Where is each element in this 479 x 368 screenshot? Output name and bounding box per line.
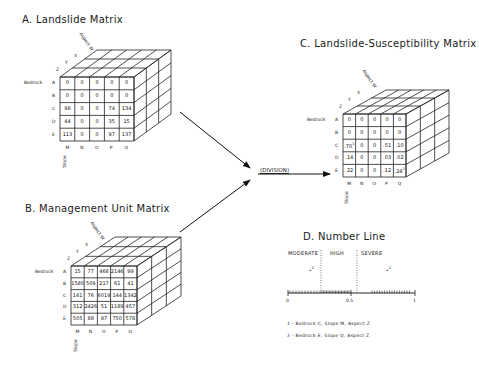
slope-tick-label: P — [385, 181, 388, 186]
bedrock-row-label: D — [52, 119, 55, 124]
category-high: HIGH — [330, 250, 344, 256]
bedrock-row-label: C — [52, 106, 55, 111]
bedrock-row-label: E — [335, 168, 338, 173]
matrix-cell: 44 — [60, 119, 75, 124]
bedrock-row-label: C — [335, 143, 338, 148]
matrix-cell: 0 — [119, 93, 134, 98]
bedrock-row-label: E — [52, 132, 55, 137]
matrix-cell: 15 — [119, 119, 134, 124]
matrix-cell: 457 — [124, 304, 137, 309]
matrix-cell: 0 — [60, 80, 75, 85]
bedrock-row-label: B — [52, 93, 55, 98]
matrix-cell: 77 — [84, 269, 97, 274]
matrix-cell: 74 — [104, 106, 119, 111]
slope-tick-label: M — [76, 329, 80, 334]
slope-tick-label: Q — [125, 145, 129, 150]
tick-label-0: 0 — [286, 298, 289, 303]
matrix-cell: 99 — [124, 269, 137, 274]
matrix-cell: 98 — [60, 106, 75, 111]
slope-axis-label: Slope — [344, 191, 349, 204]
matrix-cell: 0 — [75, 119, 90, 124]
matrix-cell: 0 — [90, 106, 105, 111]
matrix-cell: 0 — [368, 155, 381, 160]
slope-tick-label: N — [80, 145, 83, 150]
matrix-cell: .14 — [343, 155, 356, 160]
matrix-cell: 0 — [356, 130, 369, 135]
matrix-cell: 505 — [71, 316, 84, 321]
matrix-cell: 0 — [356, 143, 369, 148]
matrix-cell: 0 — [75, 106, 90, 111]
bedrock-axis-label: Bedrock — [307, 117, 325, 122]
matrix-cell: 0 — [393, 130, 406, 135]
matrix-cell: 0 — [119, 80, 134, 85]
matrix-cell: 0 — [90, 119, 105, 124]
bedrock-row-label: A — [52, 80, 55, 85]
matrix-cell: 6019 — [97, 293, 110, 298]
slope-tick-label: O — [102, 329, 106, 334]
bedrock-axis-label: Bedrock — [35, 269, 53, 274]
matrix-cell: 0 — [90, 132, 105, 137]
slope-tick-label: M — [65, 145, 69, 150]
matrix-cell: 61 — [111, 281, 124, 286]
matrix-cell: 0 — [75, 80, 90, 85]
matrix-cell: .701 — [343, 143, 356, 149]
slope-tick-label: P — [115, 329, 118, 334]
diagram-canvas — [0, 0, 479, 368]
matrix-cell: 41 — [124, 281, 137, 286]
matrix-cell: 0 — [104, 80, 119, 85]
slope-tick-label: M — [347, 181, 351, 186]
bedrock-row-label: E — [63, 316, 66, 321]
matrix-cell: 97 — [97, 316, 110, 321]
matrix-cell: 15 — [71, 269, 84, 274]
category-severe: SEVERE — [361, 250, 382, 256]
point-marker-1: •1 — [386, 266, 391, 273]
footnote-mark: 2 — [403, 167, 405, 171]
matrix-cell: 35 — [104, 119, 119, 124]
matrix-cell: 1189 — [111, 304, 124, 309]
matrix-cell: 509 — [84, 281, 97, 286]
footnote-2: 2 - Bedrock E, Slope Q, Aspect Z — [287, 333, 370, 338]
matrix-cell: .22 — [343, 168, 356, 173]
matrix-cell: 217 — [97, 281, 110, 286]
matrix-cell: 0 — [343, 117, 356, 122]
matrix-cell: 0 — [381, 130, 394, 135]
matrix-cell: 2426 — [84, 304, 97, 309]
aspect-tick-label: Z — [56, 67, 59, 72]
matrix-cell: 0 — [368, 117, 381, 122]
aspect-tick-label: Y — [76, 249, 79, 254]
bedrock-row-label: A — [63, 269, 66, 274]
matrix-cell: 0 — [368, 143, 381, 148]
matrix-cell: 144 — [111, 293, 124, 298]
matrix-cell: 0 — [368, 130, 381, 135]
bedrock-row-label: D — [63, 304, 66, 309]
division-label: (DIVISION) — [260, 167, 289, 173]
matrix-cell: 0 — [356, 117, 369, 122]
footnote-1: 1 - Bedrock C, Slope M, Aspect Z — [287, 321, 370, 326]
matrix-cell: 0 — [75, 93, 90, 98]
aspect-tick-label: X — [74, 53, 77, 58]
category-moderate: MODERATE — [288, 250, 318, 256]
matrix-cell: 0 — [356, 155, 369, 160]
slope-tick-label: Q — [128, 329, 132, 334]
matrix-cell: 141 — [71, 293, 84, 298]
matrix-cell: 312 — [71, 304, 84, 309]
matrix-cell: .03 — [381, 155, 394, 160]
matrix-cell: .02 — [393, 155, 406, 160]
matrix-cell: 0 — [90, 80, 105, 85]
matrix-cell: 0 — [393, 117, 406, 122]
slope-tick-label: N — [89, 329, 92, 334]
matrix-cell: 134 — [119, 106, 134, 111]
slope-tick-label: Q — [398, 181, 402, 186]
matrix-cell: 137 — [119, 132, 134, 137]
matrix-cell: 1580 — [71, 281, 84, 286]
matrix-cell: 97 — [104, 132, 119, 137]
bedrock-row-label: A — [335, 117, 338, 122]
matrix-cell: 0 — [104, 93, 119, 98]
arrow-a-to-division — [180, 112, 250, 168]
matrix-cell: 0 — [75, 132, 90, 137]
matrix-cell: 0 — [343, 130, 356, 135]
matrix-cell: 0 — [356, 168, 369, 173]
slope-tick-label: P — [110, 145, 113, 150]
matrix-cell: 0 — [90, 93, 105, 98]
bedrock-row-label: D — [335, 155, 338, 160]
